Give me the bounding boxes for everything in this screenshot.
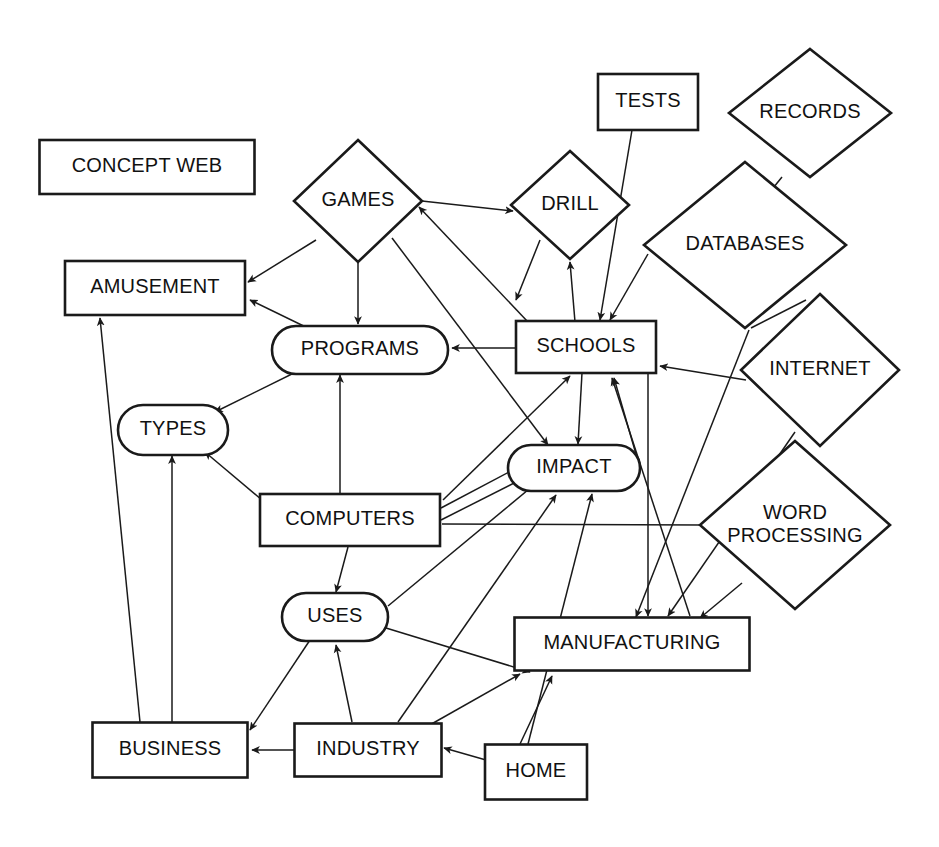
edge-games-to-drill [422,201,513,211]
node-computers[interactable]: COMPUTERS [260,494,440,546]
node-label-drill: DRILL [541,192,599,214]
edge-drill-to-impact [516,240,540,300]
node-concept_web[interactable]: CONCEPT WEB [40,140,255,194]
node-label-concept_web: CONCEPT WEB [72,154,223,176]
node-label-databases: DATABASES [686,232,805,254]
node-label-internet: INTERNET [769,357,871,379]
node-label-types: TYPES [140,417,207,439]
edge-programs-to-types [215,370,300,412]
node-label-tests: TESTS [615,89,680,111]
node-label-uses: USES [307,604,362,626]
edge-industry-to-manufacturing [428,674,520,726]
edge-industry-to-uses [336,645,352,722]
node-label-impact: IMPACT [536,455,611,477]
node-tests[interactable]: TESTS [598,74,698,130]
edge-computers-to-impact [441,478,524,520]
edge-games-to-amusement [248,240,316,282]
node-business[interactable]: BUSINESS [93,723,248,778]
edge-home-to-industry [444,748,486,760]
edge-uses-to-business [250,640,310,730]
node-games[interactable]: GAMES [294,140,422,262]
edge-computers-to-types [205,452,262,500]
edge-word_processing-to-manufacturing [700,583,742,618]
edge-schools-to-games [419,207,528,322]
edge-computers-to-word_processing [442,524,702,525]
node-label-amusement: AMUSEMENT [90,275,220,297]
node-impact[interactable]: IMPACT [508,445,640,491]
node-uses[interactable]: USES [282,593,388,641]
node-internet[interactable]: INTERNET [741,294,899,446]
diagram-svg: CONCEPT WEBGAMESTESTSRECORDSDRILLDATABAS… [0,0,939,847]
edge-databases-to-schools [610,254,648,320]
node-manufacturing[interactable]: MANUFACTURING [515,618,750,671]
node-types[interactable]: TYPES [118,405,228,455]
edge-internet-to-schools [660,366,746,380]
edge-business-to-amusement [100,318,140,722]
edge-schools-to-drill [570,262,575,322]
node-label-business: BUSINESS [119,737,222,759]
node-label-programs: PROGRAMS [301,337,419,359]
node-word_processing[interactable]: WORDPROCESSING [700,441,890,609]
edge-schools-to-impact [578,373,582,444]
edge-computers-to-uses [336,547,348,592]
node-label-manufacturing: MANUFACTURING [543,631,720,653]
nodes-layer: CONCEPT WEBGAMESTESTSRECORDSDRILLDATABAS… [40,49,900,800]
node-programs[interactable]: PROGRAMS [272,326,448,374]
node-drill[interactable]: DRILL [511,151,629,259]
node-label-industry: INDUSTRY [316,737,419,759]
node-industry[interactable]: INDUSTRY [295,724,442,777]
node-label-computers: COMPUTERS [285,507,415,529]
concept-web-diagram-canvas: CONCEPT WEBGAMESTESTSRECORDSDRILLDATABAS… [0,0,939,847]
node-amusement[interactable]: AMUSEMENT [65,261,245,315]
node-records[interactable]: RECORDS [729,49,891,177]
node-label-records: RECORDS [759,100,860,122]
node-label-games: GAMES [321,188,394,210]
node-home[interactable]: HOME [485,745,587,800]
node-label-schools: SCHOOLS [536,334,635,356]
node-label-home: HOME [506,759,567,781]
node-schools[interactable]: SCHOOLS [516,321,656,373]
